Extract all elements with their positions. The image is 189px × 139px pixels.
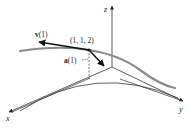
point-label: (1, 1, 2) <box>70 36 94 45</box>
point-marker <box>87 48 90 51</box>
acceleration-label: a(1) <box>64 56 77 65</box>
x-axis-label: x <box>5 114 10 123</box>
z-axis-label: z <box>103 5 108 14</box>
x-axis <box>9 67 112 112</box>
velocity-label: v(1) <box>35 30 48 39</box>
drop-line-tick <box>82 59 88 60</box>
y-axis-label: y <box>178 105 183 114</box>
space-curve-diagram: z x y (1, 1, 2) v(1) a(1) <box>0 0 189 139</box>
space-curve <box>20 48 175 88</box>
velocity-label-rest: (1) <box>39 30 48 39</box>
acceleration-label-rest: (1) <box>68 56 77 65</box>
